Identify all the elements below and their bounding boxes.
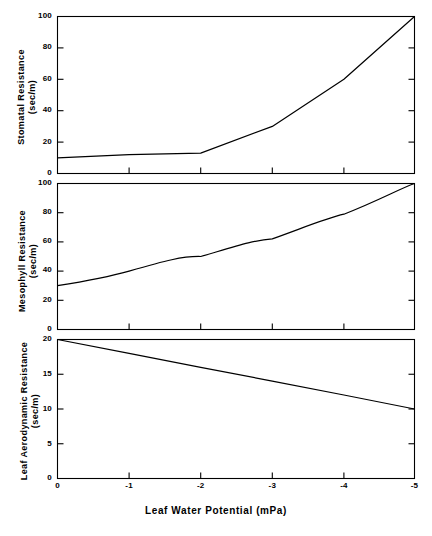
y-tick-marks xyxy=(58,48,64,142)
axes-frame xyxy=(58,184,415,330)
data-line-mesophyll xyxy=(58,184,415,286)
x-tick-label: -5 xyxy=(405,481,425,490)
x-tick-label: -2 xyxy=(191,481,211,490)
y-tick-marks-right xyxy=(409,48,415,142)
plot-area-stomatal xyxy=(0,0,432,180)
panel-leaf-aerodynamic-resistance: Leaf Aerodynamic Resistance (sec/m) 20 1… xyxy=(0,335,432,536)
x-tick-label: 0 xyxy=(48,481,68,490)
x-tick-label: -3 xyxy=(262,481,282,490)
figure-canvas: Stomatal Resistance (sec/m) 100 80 60 40… xyxy=(0,0,432,536)
data-line-stomatal xyxy=(58,17,415,158)
x-tick-label: -4 xyxy=(334,481,354,490)
panel-stomatal-resistance: Stomatal Resistance (sec/m) 100 80 60 40… xyxy=(0,0,432,180)
y-tick-marks xyxy=(58,374,64,444)
y-tick-marks xyxy=(58,213,64,301)
y-tick-marks-right xyxy=(409,213,415,301)
axes-frame xyxy=(58,17,415,174)
x-tick-marks xyxy=(129,168,344,174)
panel-mesophyll-resistance: Mesophyll Resistance (sec/m) 100 80 60 4… xyxy=(0,180,432,335)
axes-frame xyxy=(58,340,415,479)
data-line-aerodynamic xyxy=(58,340,415,410)
x-axis-title: Leaf Water Potential (mPa) xyxy=(0,505,432,516)
x-tick-label: -1 xyxy=(119,481,139,490)
plot-area-mesophyll xyxy=(0,180,432,335)
x-tick-marks xyxy=(129,324,344,330)
x-tick-marks xyxy=(129,473,344,479)
